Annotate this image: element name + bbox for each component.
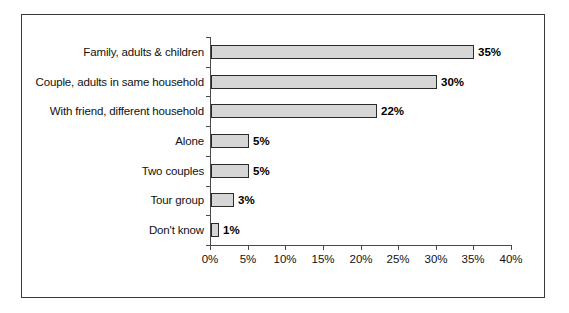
y-axis-tick xyxy=(206,96,210,97)
bar-value-label: 1% xyxy=(223,224,240,236)
bar-value-label: 5% xyxy=(253,135,270,147)
bar-value-label: 30% xyxy=(441,76,464,88)
x-axis-tick xyxy=(285,246,286,250)
y-axis-tick xyxy=(206,67,210,68)
bar-value-label: 5% xyxy=(253,165,270,177)
bar-value-label: 3% xyxy=(238,194,255,206)
x-axis-tick-label: 5% xyxy=(240,253,257,265)
y-axis-tick xyxy=(206,126,210,127)
x-axis-tick-label: 15% xyxy=(311,253,334,265)
x-axis-tick xyxy=(473,246,474,250)
category-label: Family, adults & children xyxy=(83,46,210,58)
chart-frame: Family, adults & children35%Couple, adul… xyxy=(21,14,545,298)
plot-region: Family, adults & children35%Couple, adul… xyxy=(22,15,544,297)
bar: 30% xyxy=(211,75,437,89)
x-axis-tick xyxy=(511,246,512,250)
x-axis-tick-label: 35% xyxy=(461,253,484,265)
y-axis-tick xyxy=(206,156,210,157)
x-axis-tick-label: 30% xyxy=(424,253,447,265)
y-axis-tick xyxy=(206,37,210,38)
category-label: Alone xyxy=(175,135,210,147)
bar: 22% xyxy=(211,104,377,118)
x-axis-tick-label: 0% xyxy=(202,253,219,265)
x-axis-tick-label: 40% xyxy=(499,253,522,265)
category-label: With friend, different household xyxy=(50,105,210,117)
category-label: Don't know xyxy=(149,224,210,236)
bar: 1% xyxy=(211,223,219,237)
bar: 5% xyxy=(211,134,249,148)
x-axis-tick xyxy=(323,246,324,250)
bar: 35% xyxy=(211,45,474,59)
y-axis-tick xyxy=(206,186,210,187)
x-axis-tick xyxy=(436,246,437,250)
x-axis-tick xyxy=(361,246,362,250)
x-axis-tick xyxy=(210,246,211,250)
x-axis-tick xyxy=(248,246,249,250)
y-axis-tick xyxy=(206,215,210,216)
x-axis-tick-label: 10% xyxy=(273,253,296,265)
bar: 5% xyxy=(211,164,249,178)
x-axis-tick-label: 20% xyxy=(349,253,372,265)
x-axis-tick-label: 25% xyxy=(386,253,409,265)
category-label: Tour group xyxy=(151,194,210,206)
x-axis-tick xyxy=(398,246,399,250)
bar-value-label: 35% xyxy=(478,46,501,58)
category-label: Two couples xyxy=(142,165,210,177)
bar: 3% xyxy=(211,193,234,207)
bar-value-label: 22% xyxy=(381,105,404,117)
category-label: Couple, adults in same household xyxy=(36,76,210,88)
